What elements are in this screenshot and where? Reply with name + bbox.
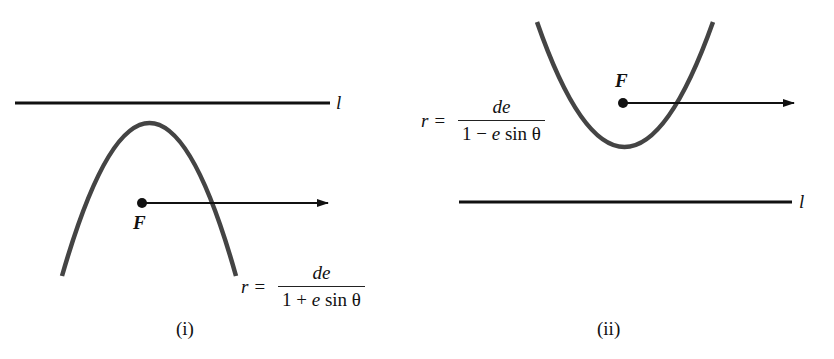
focus-label-i: F	[133, 213, 146, 232]
denominator-ii: 1 − e sin θ	[458, 120, 545, 145]
denominator-e-i: e	[312, 289, 320, 310]
focus-point-ii	[618, 98, 628, 108]
denominator-pre-i: 1 +	[282, 289, 312, 310]
equation-i: r = de 1 + e sin θ	[241, 262, 365, 311]
focus-label-ii: F	[615, 71, 628, 90]
focus-point-i	[137, 198, 147, 208]
parabola-i	[62, 123, 236, 276]
fraction-i: de 1 + e sin θ	[278, 262, 365, 311]
diagram-i	[15, 103, 330, 276]
equation-ii: r = de 1 − e sin θ	[421, 96, 545, 145]
denominator-pre-ii: 1 −	[462, 123, 492, 144]
directrix-label-i: l	[336, 93, 341, 112]
equation-lhs-ii: r =	[421, 110, 446, 132]
diagram-canvas	[0, 0, 834, 359]
denominator-post-i: sin θ	[320, 289, 361, 310]
caption-ii: (ii)	[597, 318, 620, 340]
denominator-i: 1 + e sin θ	[278, 286, 365, 311]
fraction-ii: de 1 − e sin θ	[458, 96, 545, 145]
numerator-i: de	[308, 262, 334, 286]
numerator-ii: de	[488, 96, 514, 120]
directrix-label-ii: l	[799, 192, 804, 211]
denominator-e-ii: e	[492, 123, 500, 144]
caption-i: (i)	[176, 318, 194, 340]
denominator-post-ii: sin θ	[500, 123, 541, 144]
equation-lhs-i: r =	[241, 276, 266, 298]
